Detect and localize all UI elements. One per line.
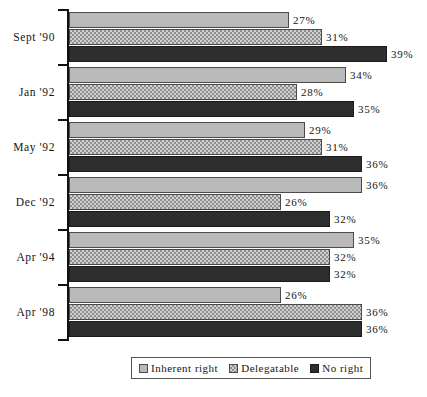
category-label: Sept '90 — [0, 31, 55, 43]
legend-swatch-icon — [139, 364, 148, 373]
bar-value-label: 32% — [330, 213, 357, 225]
bar-value-label: 28% — [297, 86, 324, 98]
axis-tick — [58, 339, 68, 341]
legend-item[interactable]: Delegatable — [229, 362, 299, 374]
bar-0[interactable] — [69, 232, 354, 248]
bar-row: 39% — [69, 46, 427, 62]
bar-row: 32% — [69, 211, 427, 227]
bar-value-label: 26% — [281, 196, 308, 208]
bar-group: May '9229%31%36% — [0, 119, 427, 174]
category-label: Apr '98 — [0, 306, 55, 318]
bar-0[interactable] — [69, 12, 289, 28]
bar-1[interactable] — [69, 29, 322, 45]
bar-value-label: 34% — [346, 69, 373, 81]
bar-0[interactable] — [69, 287, 281, 303]
bar-row: 29% — [69, 122, 427, 138]
bar-value-label: 35% — [354, 234, 381, 246]
bar-2[interactable] — [69, 156, 362, 172]
bar-group: Sept '9027%31%39% — [0, 9, 427, 64]
bar-row: 28% — [69, 84, 427, 100]
bar-row: 31% — [69, 139, 427, 155]
bar-value-label: 32% — [330, 268, 357, 280]
bar-row: 36% — [69, 304, 427, 320]
bar-value-label: 29% — [305, 124, 332, 136]
bar-row: 36% — [69, 156, 427, 172]
bar-row: 26% — [69, 194, 427, 210]
category-label: Apr '94 — [0, 251, 55, 263]
bar-row: 31% — [69, 29, 427, 45]
bar-value-label: 32% — [330, 251, 357, 263]
legend-swatch-icon — [310, 364, 319, 373]
category-label: Jan '92 — [0, 86, 55, 98]
bar-value-label: 39% — [387, 48, 414, 60]
bar-value-label: 26% — [281, 289, 308, 301]
bar-1[interactable] — [69, 139, 322, 155]
legend-swatch-icon — [229, 364, 238, 373]
bar-1[interactable] — [69, 194, 281, 210]
bar-1[interactable] — [69, 84, 297, 100]
bar-row: 34% — [69, 67, 427, 83]
category-label: May '92 — [0, 141, 55, 153]
legend-label: No right — [322, 362, 363, 374]
bar-2[interactable] — [69, 211, 330, 227]
bar-row: 32% — [69, 266, 427, 282]
bar-row: 32% — [69, 249, 427, 265]
bar-row: 35% — [69, 101, 427, 117]
bar-row: 35% — [69, 232, 427, 248]
bar-group: Apr '9826%36%36% — [0, 284, 427, 339]
bar-0[interactable] — [69, 177, 362, 193]
legend-label: Delegatable — [241, 362, 299, 374]
bar-group: Dec '9236%26%32% — [0, 174, 427, 229]
bar-value-label: 27% — [289, 14, 316, 26]
bar-value-label: 36% — [362, 323, 389, 335]
bar-row: 26% — [69, 287, 427, 303]
bar-0[interactable] — [69, 67, 346, 83]
bar-value-label: 31% — [322, 141, 349, 153]
bar-2[interactable] — [69, 101, 354, 117]
bar-2[interactable] — [69, 46, 387, 62]
bar-2[interactable] — [69, 321, 362, 337]
bar-row: 27% — [69, 12, 427, 28]
bar-value-label: 36% — [362, 158, 389, 170]
bar-2[interactable] — [69, 266, 330, 282]
bar-row: 36% — [69, 321, 427, 337]
chart-legend: Inherent rightDelegatableNo right — [131, 357, 371, 379]
bar-row: 36% — [69, 177, 427, 193]
category-label: Dec '92 — [0, 196, 55, 208]
bar-1[interactable] — [69, 304, 362, 320]
plot-area: Sept '9027%31%39%Jan '9234%28%35%May '92… — [0, 0, 427, 348]
legend-item[interactable]: Inherent right — [139, 362, 218, 374]
bar-1[interactable] — [69, 249, 330, 265]
bar-value-label: 31% — [322, 31, 349, 43]
legend-label: Inherent right — [151, 362, 218, 374]
bar-group: Apr '9435%32%32% — [0, 229, 427, 284]
bar-value-label: 35% — [354, 103, 381, 115]
bar-value-label: 36% — [362, 179, 389, 191]
bar-0[interactable] — [69, 122, 305, 138]
legend-item[interactable]: No right — [310, 362, 363, 374]
bar-group: Jan '9234%28%35% — [0, 64, 427, 119]
bar-value-label: 36% — [362, 306, 389, 318]
bar-chart: Sept '9027%31%39%Jan '9234%28%35%May '92… — [0, 0, 427, 397]
